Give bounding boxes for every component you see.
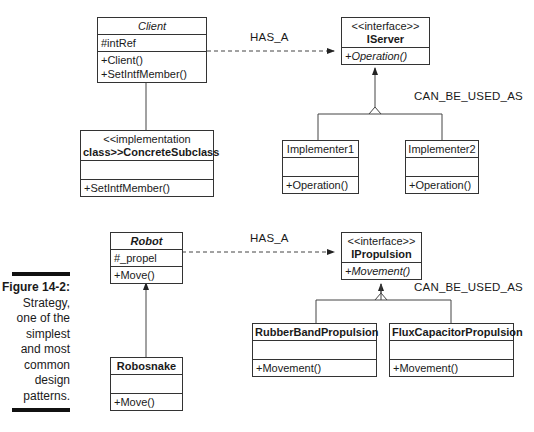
operation: +SetIntfMember() [81,180,213,196]
interface-name: IServer [344,33,427,46]
operation: +Move() [111,267,182,283]
caption-bottom-rule [12,408,70,412]
stereotype: <<interface>> [344,20,427,33]
operation: +SetIntfMember() [101,67,203,81]
class-name: Implementer2 [406,141,478,158]
attribute-section [253,341,376,360]
caption-line: simplest [2,327,70,343]
caption-line: Strategy, [2,296,70,312]
caption-line: design [2,373,70,389]
attribute-section [81,161,213,180]
attribute-section [390,341,513,360]
caption-line: one of the [2,311,70,327]
operation: +Operation() [283,177,358,193]
attribute-section [406,158,478,177]
attribute-section [111,375,182,394]
class-robot: Robot #_propel +Move() [110,232,183,284]
operation: +Movement() [390,360,513,376]
class-implementer1: Implementer1 +Operation() [282,140,359,194]
association-label: HAS_A [250,232,289,244]
class-name: Robot [111,233,182,250]
stereotype: <<implementation [83,133,211,146]
interface-ipropulsion: <<interface>> IPropulsion +Movement() [341,232,422,280]
class-implementer2: Implementer2 +Operation() [405,140,479,194]
operation: +Movement() [253,360,376,376]
class-name: RubberBandPropulsion [253,324,376,341]
association-label: HAS_A [250,31,289,43]
class-name: FluxCapacitorPropulsion [390,324,513,341]
attribute: #intRef [98,35,206,52]
operation: +Movement() [342,263,421,279]
class-name: Robosnake [111,358,182,375]
realization-label: CAN_BE_USED_AS [414,90,523,102]
caption-line: common [2,358,70,374]
class-robosnake: Robosnake +Move() [110,357,183,411]
caption-top-rule [12,272,70,276]
operation: +Client() [101,53,203,67]
class-rubber-band-propulsion: RubberBandPropulsion +Movement() [252,323,377,377]
interface-name: IPropulsion [344,248,419,261]
caption-line: and most [2,342,70,358]
class-client: Client #intRef +Client() +SetIntfMember(… [97,17,207,83]
figure-label: Figure 14-2: [2,280,70,296]
interface-iserver: <<interface>> IServer +Operation() [341,17,430,65]
figure-caption: Figure 14-2: Strategy, one of the simple… [0,250,72,420]
attribute: #_propel [111,250,182,267]
class-flux-capacitor-propulsion: FluxCapacitorPropulsion +Movement() [389,323,514,377]
caption-line: patterns. [2,389,70,405]
class-concrete-subclass: <<implementation class>>ConcreteSubclass… [80,130,214,197]
class-name: class>>ConcreteSubclass [83,146,211,159]
operation: +Operation() [406,177,478,193]
realization-label: CAN_BE_USED_AS [414,281,523,293]
operation: +Move() [111,394,182,410]
operation: +Operation() [342,48,429,64]
attribute-section [283,158,358,177]
class-name: Implementer1 [283,141,358,158]
class-name: Client [98,18,206,35]
stereotype: <<interface>> [344,235,419,248]
